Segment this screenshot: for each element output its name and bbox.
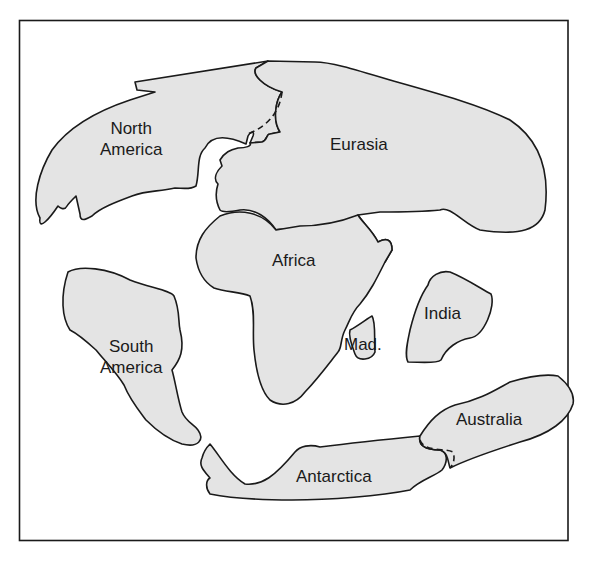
continent-map <box>0 0 590 561</box>
label-india: India <box>424 303 461 324</box>
label-south-america: South America <box>100 336 162 378</box>
label-australia: Australia <box>456 409 522 430</box>
label-north-america: North America <box>100 118 162 160</box>
africa-shape <box>196 212 392 404</box>
label-madagascar: Mad. <box>344 334 382 355</box>
label-africa: Africa <box>272 250 315 271</box>
label-antarctica: Antarctica <box>296 466 372 487</box>
label-eurasia: Eurasia <box>330 134 388 155</box>
